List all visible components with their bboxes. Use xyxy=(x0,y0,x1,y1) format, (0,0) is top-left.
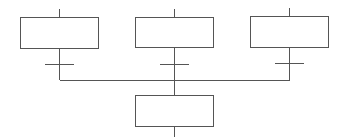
step-bottom xyxy=(136,96,214,127)
step-right xyxy=(251,17,329,48)
step-left xyxy=(21,18,99,49)
step-middle xyxy=(136,18,214,48)
grafcet-diagram xyxy=(0,0,347,140)
